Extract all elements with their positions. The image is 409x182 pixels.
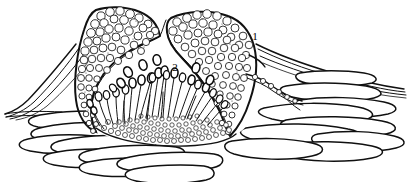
ostiole [160, 20, 166, 36]
fungal-section-illustration: 1 2 [0, 0, 409, 182]
figure-canvas: 1 2 [0, 0, 409, 182]
label-2: 2 [172, 61, 178, 73]
label-1: 1 [252, 30, 258, 42]
